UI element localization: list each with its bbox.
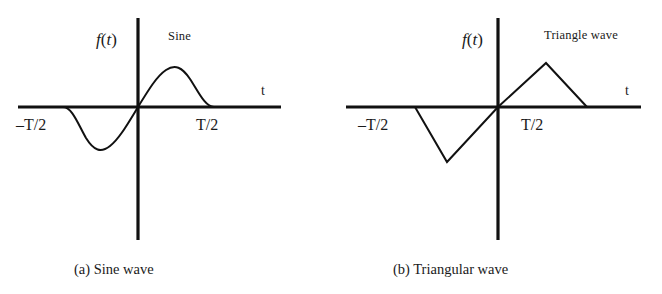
wave-title-triangle: Triangle wave — [544, 29, 618, 42]
y-axis-label: f(t) — [462, 31, 483, 48]
sine-wave-plot — [0, 0, 331, 250]
x-axis-label: t — [261, 84, 265, 98]
panel-triangular-wave: f(t) Triangle wave t –T/2 T/2 (b) Triang… — [331, 0, 662, 294]
y-axis-label: f(t) — [96, 31, 117, 48]
wave-title-sine: Sine — [168, 30, 191, 43]
x-tick-label-negative-half-period: –T/2 — [16, 117, 46, 133]
x-tick-label-positive-half-period: T/2 — [196, 117, 218, 133]
triangle-curve — [415, 63, 587, 162]
panel-sine-wave: f(t) Sine t –T/2 T/2 (a) Sine wave — [0, 0, 331, 294]
y-axis-label-close-paren: ) — [111, 30, 117, 49]
x-tick-label-negative-half-period: –T/2 — [358, 117, 388, 133]
panel-caption-b: (b) Triangular wave — [393, 262, 508, 277]
y-axis-label-close-paren: ) — [477, 30, 483, 49]
panel-caption-a: (a) Sine wave — [74, 262, 154, 277]
x-tick-label-positive-half-period: T/2 — [521, 117, 543, 133]
figure-container: f(t) Sine t –T/2 T/2 (a) Sine wave f(t) … — [0, 0, 662, 294]
x-axis-label: t — [625, 84, 629, 98]
